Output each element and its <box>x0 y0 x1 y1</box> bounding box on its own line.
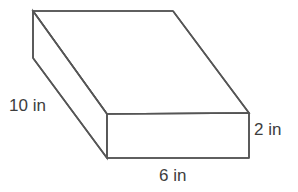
prism-edge-top-front <box>107 113 249 114</box>
width-label: 6 in <box>159 166 186 185</box>
rectangular-prism-figure: 10 in 6 in 2 in <box>0 0 298 192</box>
depth-label: 10 in <box>9 96 46 115</box>
prism-front-face <box>107 113 249 158</box>
height-label: 2 in <box>254 120 281 139</box>
